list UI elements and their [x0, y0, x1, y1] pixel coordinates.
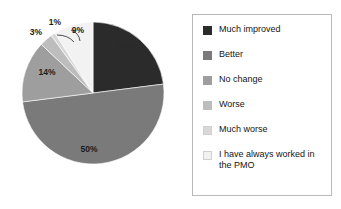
legend-list: Much improvedBetterNo changeWorseMuch wo…: [193, 15, 331, 195]
legend-swatch-icon: [203, 51, 212, 60]
legend-swatch-icon: [203, 101, 212, 110]
pie-slices: [22, 22, 164, 164]
pie-label-much-improved: 23%: [117, 41, 134, 51]
pie-svg: 23% 50% 14% 9% 3% 1%: [0, 0, 185, 209]
legend: Much improvedBetterNo changeWorseMuch wo…: [192, 14, 332, 196]
legend-item-label: I have always worked in the PMO: [219, 149, 315, 171]
pie-label-better: 50%: [80, 144, 97, 154]
pie-chart-figure: 23% 50% 14% 9% 3% 1% Much improvedBetter…: [0, 0, 341, 209]
legend-swatch-icon: [203, 151, 212, 160]
legend-item-label: No change: [219, 74, 263, 85]
pie-label-pmo: 9%: [72, 25, 85, 35]
legend-swatch-icon: [203, 126, 212, 135]
pie-callout-much-worse: 1%: [49, 17, 62, 27]
legend-item-label: Much worse: [219, 124, 268, 135]
pie-label-no-change: 14%: [38, 67, 55, 77]
legend-item[interactable]: Better: [203, 49, 325, 60]
pie-callout-worse: 3%: [30, 27, 43, 37]
legend-swatch-icon: [203, 76, 212, 85]
legend-item[interactable]: I have always worked in the PMO: [203, 149, 325, 171]
legend-item-label: Worse: [219, 99, 245, 110]
legend-item[interactable]: Worse: [203, 99, 325, 110]
legend-item[interactable]: No change: [203, 74, 325, 85]
legend-item-label: Better: [219, 49, 243, 60]
legend-swatch-icon: [203, 26, 212, 35]
legend-item[interactable]: Much worse: [203, 124, 325, 135]
pie-slice-much-improved[interactable]: [93, 22, 163, 93]
legend-item[interactable]: Much improved: [203, 24, 325, 35]
pie-plot-area: 23% 50% 14% 9% 3% 1%: [0, 0, 185, 209]
legend-item-label: Much improved: [219, 24, 281, 35]
